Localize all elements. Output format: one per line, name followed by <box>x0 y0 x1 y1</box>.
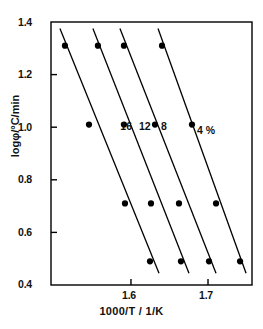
data-point <box>147 258 153 264</box>
data-point <box>62 43 68 49</box>
x-axis-label: 1000/T / 1/K <box>0 305 263 317</box>
y-tick-label-1.0: 1.0 <box>18 121 32 133</box>
series-line-12 <box>93 29 189 274</box>
data-point <box>95 43 101 49</box>
data-point <box>121 43 127 49</box>
series-label-12: 12 <box>139 120 151 132</box>
y-tick-label-0.6: 0.6 <box>18 226 32 238</box>
series-label-4-percent: 4 % <box>197 124 215 136</box>
x-tick-label-1.6: 1.6 <box>122 289 136 301</box>
series-line-16 <box>60 29 159 274</box>
data-point <box>148 200 154 206</box>
figure: logφ/°C/min 1000/T / 1/K 1.4 1.2 1.0 0.8… <box>0 0 263 329</box>
series-label-16: 16 <box>120 120 132 132</box>
data-point <box>237 258 243 264</box>
data-point <box>159 43 165 49</box>
chart-canvas <box>0 0 263 329</box>
y-tick-label-0.8: 0.8 <box>18 173 32 185</box>
data-point <box>189 121 195 127</box>
series-label-8: 8 <box>161 120 167 132</box>
data-point <box>178 258 184 264</box>
data-point <box>152 121 158 127</box>
x-tick-label-1.7: 1.7 <box>199 289 213 301</box>
y-tick-label-1.4: 1.4 <box>18 16 32 28</box>
y-tick-label-1.2: 1.2 <box>18 68 32 80</box>
data-point <box>213 200 219 206</box>
plot-frame <box>51 22 252 285</box>
data-point <box>86 121 92 127</box>
data-point <box>176 200 182 206</box>
data-point <box>122 200 128 206</box>
data-point <box>206 258 212 264</box>
y-tick-label-0.4: 0.4 <box>18 278 32 290</box>
